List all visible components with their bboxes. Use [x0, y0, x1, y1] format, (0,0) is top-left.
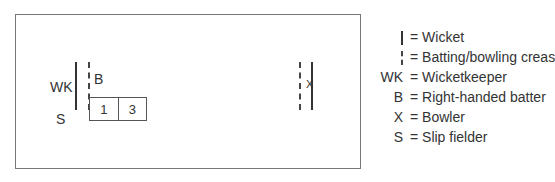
bowling-crease [299, 62, 301, 110]
wicketkeeper-label: WK [50, 79, 73, 95]
score-box: 1 3 [89, 97, 147, 121]
slip-label: S [56, 111, 65, 127]
legend: = Wicket = Batting/bowling crease WK = W… [368, 27, 555, 147]
legend-item-wicketkeeper: WK = Wicketkeeper [368, 67, 555, 87]
legend-item-wicket: = Wicket [368, 27, 555, 47]
bowler-marker: X [306, 78, 313, 90]
crease-icon [401, 47, 403, 67]
batter-label: B [94, 71, 103, 87]
score-cell: 1 [90, 98, 118, 120]
wicket-icon [401, 27, 403, 47]
batting-wicket [75, 62, 77, 110]
legend-item-crease: = Batting/bowling crease [368, 47, 555, 67]
legend-item-slip: S = Slip fielder [368, 127, 555, 147]
score-cell: 3 [118, 98, 147, 120]
legend-item-bowler: X = Bowler [368, 107, 555, 127]
legend-item-batter: B = Right-handed batter [368, 87, 555, 107]
